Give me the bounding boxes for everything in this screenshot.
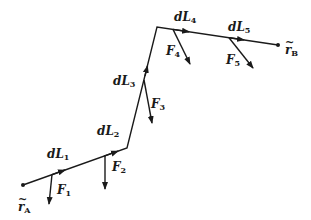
- force-f2-label: F2: [112, 161, 126, 174]
- segment-dl5-subscript: 5: [245, 25, 251, 35]
- endpoint-a-label: rA: [18, 201, 31, 214]
- force-f3-subscript: 3: [160, 102, 166, 112]
- segment-dl1-symbol: dL: [47, 147, 64, 161]
- segment-dl3-label: dL3: [113, 75, 135, 88]
- endpoint-b-dot: [276, 43, 280, 47]
- force-f1-subscript: 1: [66, 188, 72, 198]
- force-f4-symbol: F: [166, 44, 175, 58]
- force-f5-label: F5: [226, 54, 240, 67]
- force-f1-symbol: F: [57, 183, 66, 197]
- dl1-arrow-icon: [52, 170, 65, 175]
- diagram-canvas: rA rB dL1 dL2 dL3 dL4 dL5 F1 F2 F3 F4 F5: [0, 0, 311, 220]
- segment-dl1-label: dL1: [47, 148, 69, 161]
- segment-dl4-subscript: 4: [191, 15, 197, 25]
- dl4-arrow-icon: [173, 29, 189, 31]
- endpoint-a-dot: [21, 183, 25, 187]
- endpoint-b-symbol: r: [285, 44, 291, 56]
- force-f2-symbol: F: [112, 160, 121, 174]
- force-f3-symbol: F: [151, 97, 160, 111]
- force-f5-symbol: F: [226, 53, 235, 67]
- endpoint-b-subscript: B: [291, 48, 298, 58]
- segment-dl5-label: dL5: [228, 21, 250, 34]
- force-f1-arrow-icon: [49, 175, 52, 205]
- force-f1-label: F1: [57, 184, 71, 197]
- segment-dl5-symbol: dL: [228, 20, 245, 34]
- segment-dl3-subscript: 3: [130, 79, 136, 89]
- segment-dl1-subscript: 1: [64, 152, 70, 162]
- segment-dl2-symbol: dL: [97, 124, 114, 138]
- force-f4-label: F4: [166, 45, 180, 58]
- force-f3-label: F3: [151, 98, 165, 111]
- segment-dl4-label: dL4: [174, 11, 196, 24]
- endpoint-a-subscript: A: [24, 205, 30, 215]
- segment-dl2-subscript: 2: [114, 129, 120, 139]
- force-f4-subscript: 4: [175, 49, 181, 59]
- force-f5-subscript: 5: [235, 58, 241, 68]
- segment-dl4-symbol: dL: [174, 10, 191, 24]
- dl2-arrow-icon: [104, 151, 118, 156]
- endpoint-a-symbol: r: [18, 201, 24, 213]
- segment-dl2-label: dL2: [97, 125, 119, 138]
- force-f2-subscript: 2: [121, 165, 127, 175]
- segment-dl3-symbol: dL: [113, 74, 130, 88]
- endpoint-b-label: rB: [285, 44, 298, 57]
